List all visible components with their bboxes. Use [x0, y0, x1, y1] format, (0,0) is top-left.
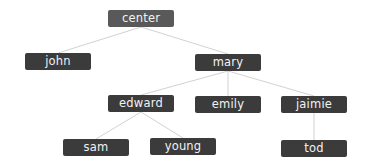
- edge-mary-edward: [141, 71, 228, 95]
- edge-center-mary: [141, 27, 228, 54]
- node-young[interactable]: young: [150, 138, 216, 155]
- edge-mary-jaimie: [228, 71, 314, 96]
- node-tod[interactable]: tod: [281, 140, 347, 157]
- node-mary[interactable]: mary: [195, 54, 261, 71]
- edge-center-john: [58, 27, 141, 53]
- node-center[interactable]: center: [108, 10, 174, 27]
- tree-diagram: centerjohnmaryedwardemilyjaimiesamyoungt…: [0, 0, 368, 168]
- node-emily[interactable]: emily: [195, 96, 261, 113]
- node-john[interactable]: john: [25, 53, 91, 70]
- node-edward[interactable]: edward: [108, 95, 174, 112]
- node-jaimie[interactable]: jaimie: [281, 96, 347, 113]
- edge-edward-young: [141, 112, 183, 138]
- node-sam[interactable]: sam: [63, 139, 129, 156]
- edge-edward-sam: [96, 112, 141, 139]
